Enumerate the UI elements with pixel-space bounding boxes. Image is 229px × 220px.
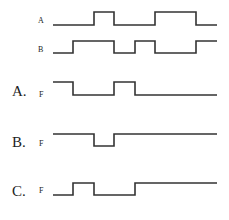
- waveform-a: [53, 12, 217, 25]
- option-label-a: A.: [12, 83, 27, 99]
- signal-label-a: A: [38, 16, 44, 25]
- option-label-b: B.: [12, 134, 26, 150]
- option-b-waveform: [53, 134, 217, 146]
- option-b-signal-label: F: [39, 139, 44, 148]
- option-c-signal-label: F: [39, 186, 44, 195]
- option-a-signal-label: F: [39, 90, 44, 99]
- timing-diagram: A B A. F B. F C. F: [0, 0, 229, 220]
- option-c: C. F: [12, 183, 217, 199]
- input-signal-a: A: [38, 12, 217, 25]
- input-signal-b: B: [38, 41, 217, 54]
- option-c-waveform: [53, 183, 217, 195]
- option-label-c: C.: [12, 183, 26, 199]
- option-a: A. F: [12, 82, 217, 99]
- option-b: B. F: [12, 134, 217, 150]
- waveform-b: [53, 41, 217, 53]
- signal-label-b: B: [38, 45, 43, 54]
- option-a-waveform: [53, 82, 217, 95]
